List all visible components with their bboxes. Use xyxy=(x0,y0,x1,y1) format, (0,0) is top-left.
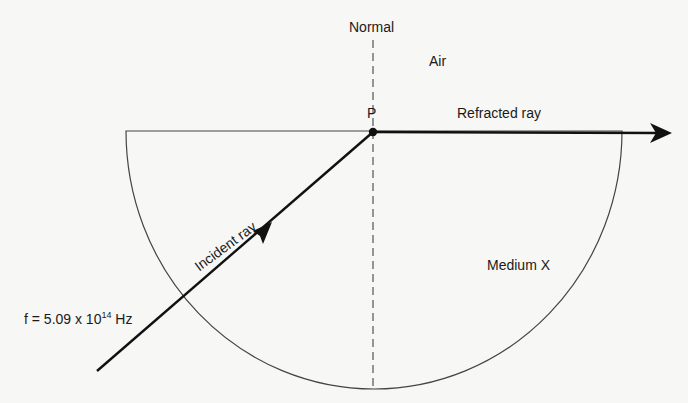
point-p-dot xyxy=(369,128,377,136)
incident-ray xyxy=(97,132,373,371)
normal-label: Normal xyxy=(349,20,394,34)
air-label: Air xyxy=(429,54,446,68)
point-p-label: P xyxy=(367,106,376,120)
frequency-unit: Hz xyxy=(111,311,132,327)
frequency-prefix: f = 5.09 x 10 xyxy=(24,311,101,327)
frequency-exponent: 14 xyxy=(101,310,111,320)
refraction-diagram: Normal Air P Refracted ray Incident ray … xyxy=(0,0,688,403)
diagram-graphics xyxy=(0,0,688,403)
refracted-ray xyxy=(373,132,660,133)
refracted-ray-label: Refracted ray xyxy=(457,106,541,120)
medium-x-label: Medium X xyxy=(487,258,550,272)
frequency-label: f = 5.09 x 1014 Hz xyxy=(24,312,132,326)
